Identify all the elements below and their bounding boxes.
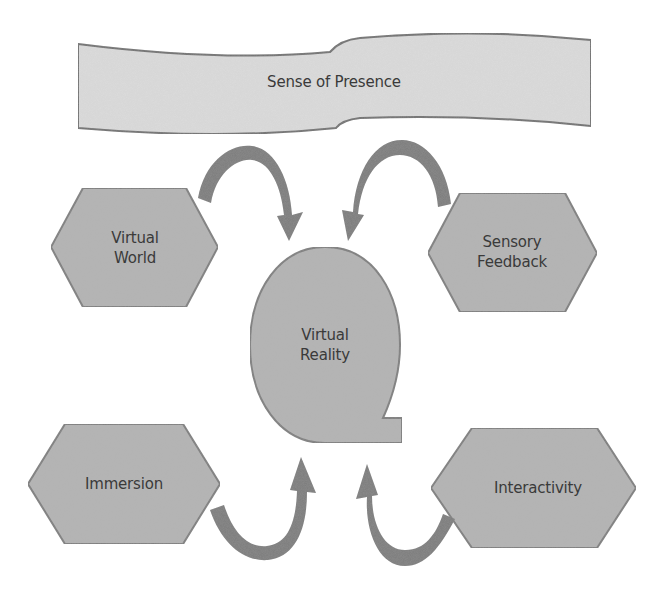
presence-banner [78,33,591,134]
hexagon-interactivity [431,428,636,548]
arrow-sensory-feedback-icon [342,140,451,241]
hexagon-immersion [28,424,220,544]
virtual-reality-shape [250,247,402,443]
arrow-virtual-world-icon [198,146,303,241]
arrow-immersion-icon [210,457,316,560]
hexagon-virtual-world [51,188,218,307]
hexagon-sensory-feedback [428,193,597,312]
virtual-reality-diagram [0,0,671,599]
